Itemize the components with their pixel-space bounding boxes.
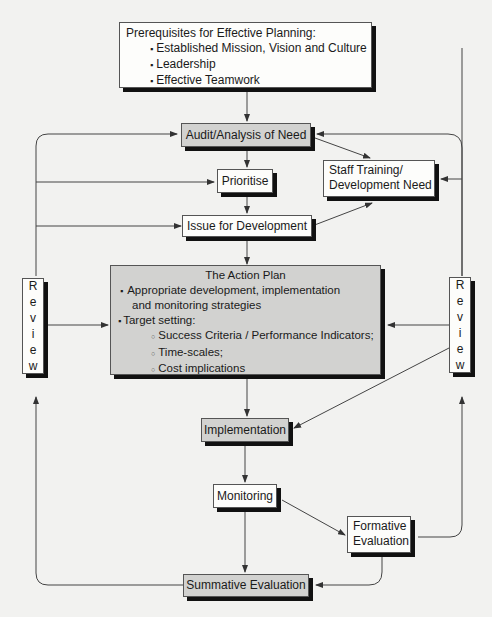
audit-analysis-node: Audit/Analysis of Need	[181, 123, 311, 147]
arrow-issue-to-staff	[312, 203, 372, 226]
prerequisites-list: ▪Established Mission, Vision and Culture…	[150, 41, 371, 89]
arrow-formative-to-summative	[316, 553, 382, 585]
summative-evaluation-node: Summative Evaluation	[183, 574, 309, 597]
formative-label-line1: Formative	[353, 519, 410, 534]
arrow-formative-to-review-right	[418, 397, 462, 537]
review-right-node: R e v i e w	[449, 277, 471, 373]
implementation-label: Implementation	[204, 423, 286, 438]
review-letter: i	[459, 325, 462, 341]
prioritise-label: Prioritise	[222, 174, 269, 189]
prerequisites-title: Prerequisites for Effective Planning:	[126, 26, 371, 41]
review-letter: R	[456, 277, 465, 293]
action-plan-item-cont: and monitoring strategies	[118, 298, 380, 313]
issue-for-development-node: Issue for Development	[182, 215, 312, 237]
summative-label: Summative Evaluation	[186, 578, 305, 593]
review-letter: w	[29, 358, 38, 374]
review-letter: e	[457, 293, 464, 309]
staff-training-node: Staff Training/ Development Need	[323, 160, 435, 197]
review-left-node: R e v i e w	[22, 278, 44, 374]
staff-label-line2: Development Need	[329, 178, 434, 193]
action-plan-item: ▪Target setting:	[118, 313, 380, 329]
prerequisite-item: ▪Effective Teamwork	[150, 73, 371, 89]
prerequisites-box: Prerequisites for Effective Planning: ▪E…	[119, 22, 372, 88]
action-plan-subitem: ○Time-scales;	[118, 345, 380, 362]
loop-left-bottom	[36, 397, 183, 585]
review-letter: w	[456, 357, 465, 373]
implementation-node: Implementation	[201, 418, 289, 442]
review-letter: e	[457, 341, 464, 357]
review-letter: i	[32, 326, 35, 342]
action-plan-item: ▪Appropriate development, implementation	[118, 283, 380, 299]
prerequisite-item: ▪Established Mission, Vision and Culture	[150, 41, 371, 57]
formative-label-line2: Evaluation	[353, 534, 410, 549]
prerequisite-item: ▪Leadership	[150, 57, 371, 73]
loop-left-top	[36, 134, 177, 276]
review-letter: v	[457, 309, 463, 325]
staff-label-line1: Staff Training/	[329, 163, 434, 178]
formative-evaluation-node: Formative Evaluation	[347, 516, 411, 553]
review-letter: e	[30, 294, 37, 310]
issue-label: Issue for Development	[187, 219, 307, 234]
loop-right-top	[317, 134, 462, 276]
audit-label: Audit/Analysis of Need	[186, 128, 307, 143]
arrow-audit-to-staff	[315, 138, 370, 158]
monitoring-node: Monitoring	[213, 484, 277, 508]
review-letter: v	[30, 310, 36, 326]
review-letter: e	[30, 342, 37, 358]
action-plan-node: The Action Plan ▪Appropriate development…	[110, 265, 381, 375]
action-plan-subitem: ○Cost implications	[118, 361, 380, 378]
review-letter: R	[29, 278, 38, 294]
monitoring-label: Monitoring	[217, 489, 273, 504]
prioritise-node: Prioritise	[217, 169, 273, 193]
arrow-monitoring-to-formative	[282, 500, 345, 535]
action-plan-title: The Action Plan	[118, 268, 380, 283]
action-plan-subitem: ○Success Criteria / Performance Indicato…	[118, 328, 380, 345]
